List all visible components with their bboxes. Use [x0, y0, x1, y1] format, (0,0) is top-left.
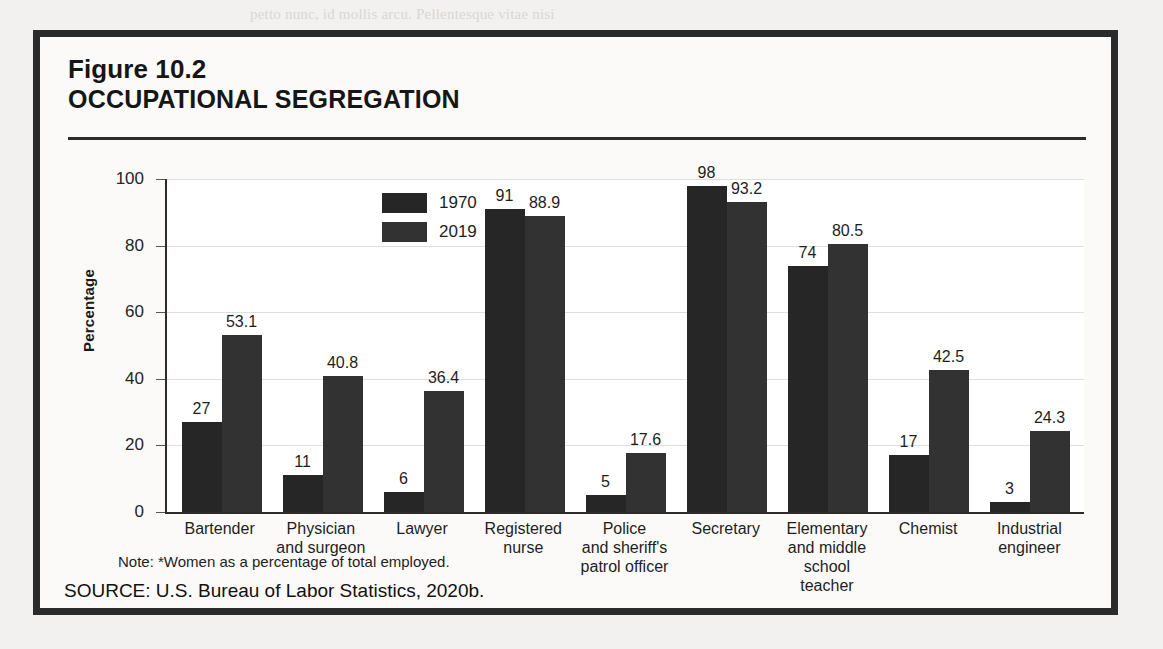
legend-item-2019: 2019	[382, 222, 477, 242]
x-axis-category-label: Secretary	[675, 515, 776, 595]
y-axis-tick-label: 60	[86, 302, 144, 322]
bar-group: 517.6	[575, 179, 676, 512]
bar-value-label: 40.8	[327, 354, 358, 372]
bar-group: 9188.9	[474, 179, 575, 512]
y-axis-tick-label: 0	[86, 502, 144, 522]
x-axis-category-label: Chemist	[878, 515, 979, 595]
bar-value-label: 17.6	[630, 431, 661, 449]
page-bleed-line: petto nunc, id mollis arcu. Pellentesque…	[250, 6, 555, 23]
title-divider	[68, 137, 1086, 140]
bar-1970: 11	[283, 475, 323, 512]
y-axis-tick-label: 100	[86, 169, 144, 189]
bar-group: 1140.8	[272, 179, 373, 512]
bar-group: 2753.1	[171, 179, 272, 512]
bar-group: 1742.5	[878, 179, 979, 512]
chart-source: SOURCE: U.S. Bureau of Labor Statistics,…	[64, 580, 484, 602]
bar-2019: 36.4	[424, 391, 464, 512]
bar-2019: 40.8	[323, 376, 363, 512]
x-axis-category-label: Elementaryand middleschool teacher	[776, 515, 877, 595]
y-axis-tick-label: 40	[86, 369, 144, 389]
x-axis-category-label: Industrialengineer	[979, 515, 1080, 595]
chart-plot: Percentage 020406080100 1970 2019 2753.1…	[64, 157, 1090, 557]
bar-value-label: 42.5	[933, 348, 964, 366]
bar-value-label: 80.5	[832, 222, 863, 240]
bar-1970: 6	[384, 492, 424, 512]
bar-1970: 74	[788, 266, 828, 512]
bar-2019: 42.5	[929, 370, 969, 512]
bar-value-label: 11	[294, 453, 311, 471]
legend-swatch-icon	[382, 193, 427, 213]
bar-1970: 27	[182, 422, 222, 512]
bar-1970: 17	[889, 455, 929, 512]
legend-item-1970: 1970	[382, 193, 477, 213]
figure-title: OCCUPATIONAL SEGREGATION	[68, 85, 460, 114]
bar-value-label: 5	[601, 473, 610, 491]
y-axis-tick-label: 20	[86, 435, 144, 455]
figure-number: Figure 10.2	[68, 54, 206, 85]
bar-2019: 17.6	[626, 453, 666, 512]
legend-swatch-icon	[382, 222, 427, 242]
y-axis-tick-mark	[156, 312, 165, 313]
bar-value-label: 74	[799, 244, 817, 262]
bar-value-label: 88.9	[529, 194, 560, 212]
y-axis-tick-mark	[156, 445, 165, 446]
y-axis-tick-mark	[156, 379, 165, 380]
bar-2019: 88.9	[525, 216, 565, 512]
y-axis-tick-mark	[156, 179, 165, 180]
bar-value-label: 27	[193, 400, 211, 418]
y-axis-tick-mark	[156, 246, 165, 247]
plot-area: 1970 2019 2753.11140.8636.49188.9517.698…	[165, 179, 1084, 514]
bar-group: 324.3	[979, 179, 1080, 512]
legend-label: 2019	[439, 222, 477, 242]
bar-1970: 3	[990, 502, 1030, 512]
x-axis-category-label: Registerednurse	[473, 515, 574, 595]
bar-value-label: 93.2	[731, 180, 762, 198]
bar-2019: 53.1	[222, 335, 262, 512]
bar-2019: 93.2	[727, 202, 767, 512]
bar-value-label: 91	[496, 187, 514, 205]
y-axis-tick-label: 80	[86, 236, 144, 256]
bar-value-label: 6	[399, 470, 408, 488]
legend-label: 1970	[439, 193, 477, 213]
chart-legend: 1970 2019	[382, 193, 477, 251]
bar-group: 7480.5	[777, 179, 878, 512]
bar-value-label: 24.3	[1034, 409, 1065, 427]
y-axis-tick-mark	[156, 512, 165, 513]
bar-2019: 24.3	[1030, 431, 1070, 512]
bar-value-label: 17	[900, 433, 918, 451]
bar-value-label: 3	[1005, 480, 1014, 498]
bar-1970: 98	[687, 186, 727, 512]
bar-group: 9893.2	[676, 179, 777, 512]
x-axis-category-label: Policeand sheriff'spatrol officer	[574, 515, 675, 595]
bar-groups: 2753.11140.8636.49188.9517.69893.27480.5…	[167, 179, 1084, 512]
bar-1970: 91	[485, 209, 525, 512]
bar-value-label: 53.1	[226, 313, 257, 331]
bar-value-label: 36.4	[428, 369, 459, 387]
bar-1970: 5	[586, 495, 626, 512]
bar-2019: 80.5	[828, 244, 868, 512]
chart-note: Note: *Women as a percentage of total em…	[118, 553, 450, 570]
bar-value-label: 98	[698, 164, 716, 182]
figure-card: Figure 10.2 OCCUPATIONAL SEGREGATION Per…	[33, 30, 1118, 615]
